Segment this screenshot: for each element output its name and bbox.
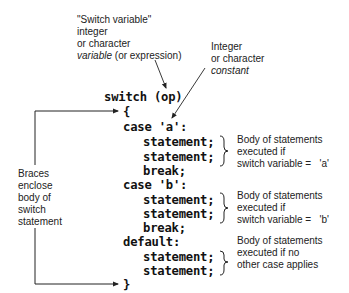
default-brace — [220, 251, 228, 275]
case-a-brace — [220, 136, 228, 166]
braces-connector-bottom — [35, 228, 118, 284]
switch-variable-arrow — [155, 60, 166, 88]
case-constant-arrow — [172, 68, 205, 118]
case-b-brace — [220, 193, 228, 223]
braces-connector-top — [35, 111, 118, 165]
